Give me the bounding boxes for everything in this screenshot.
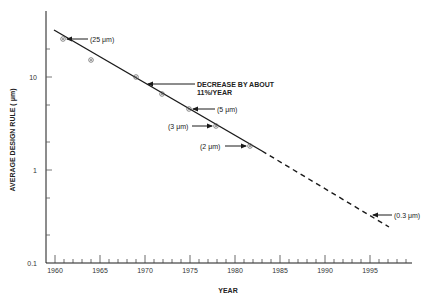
x-tick-1975: 1975 [182, 267, 198, 274]
y-axis-title: AVERAGE DESIGN RULE ( μm) [9, 89, 17, 192]
x-ticks [55, 255, 406, 263]
annotations: (25 μm) DECREASE BY ABOUT 11%/YEAR (5 μm… [67, 36, 420, 220]
annotation-0-3um: (0.3 μm) [394, 212, 420, 220]
x-tick-1960: 1960 [47, 267, 63, 274]
y-tick-1: 1 [33, 167, 37, 174]
x-tick-1970: 1970 [137, 267, 153, 274]
x-tick-1995: 1995 [362, 267, 378, 274]
trend-line-dashed [262, 151, 389, 227]
y-tick-10: 10 [29, 74, 37, 81]
y-ticks [46, 49, 52, 235]
annotation-2um: (2 μm) [200, 143, 220, 151]
y-tick-0-1: 0.1 [27, 260, 37, 267]
x-tick-1990: 1990 [317, 267, 333, 274]
x-tick-1980: 1980 [227, 267, 243, 274]
annotation-decrease-line2: 11%/YEAR [197, 89, 232, 96]
design-rule-chart: 10 1 0.1 1960 1965 1970 1975 1980 1985 1… [0, 0, 435, 303]
annotation-decrease-line1: DECREASE BY ABOUT [197, 81, 275, 88]
data-point-1964 [89, 58, 94, 63]
x-tick-1985: 1985 [272, 267, 288, 274]
annotation-5um: (5 μm) [217, 106, 237, 114]
x-tick-1965: 1965 [92, 267, 108, 274]
x-axis-title: YEAR [218, 287, 237, 294]
annotation-3um: (3 μm) [168, 123, 188, 131]
data-point-1961 [61, 37, 66, 42]
axes: 10 1 0.1 1960 1965 1970 1975 1980 1985 1… [9, 11, 412, 294]
annotation-25um: (25 μm) [90, 36, 114, 44]
